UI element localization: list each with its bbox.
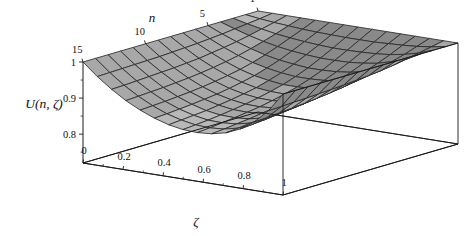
x-tick-mark — [283, 192, 284, 195]
tick-label: 0.2 — [118, 151, 131, 162]
x-tick-mark — [163, 172, 164, 175]
tick-label: 0.8 — [63, 129, 76, 140]
base-plane — [83, 112, 458, 195]
axis-title: n — [149, 10, 156, 25]
surface-mesh — [83, 11, 458, 195]
tick-label: 5 — [200, 8, 205, 19]
surface-plot-figure: 00.20.40.60.811510510.80.91U(n, ζ)ζn U(n… — [0, 0, 467, 236]
axis-title: U(n, ζ) — [25, 96, 63, 111]
tick-label: 0.4 — [158, 157, 172, 168]
tick-label: 1 — [71, 57, 76, 68]
x-tick-mark — [123, 166, 124, 169]
x-tick-mark — [243, 185, 244, 188]
tick-label: 10 — [135, 26, 146, 37]
y-tick-mark — [82, 59, 83, 62]
axis-title: ζ — [193, 214, 199, 229]
tick-label: 1 — [282, 177, 287, 188]
tick-label: 1 — [250, 0, 255, 4]
x-tick-mark — [203, 179, 204, 182]
y-tick-mark — [145, 40, 146, 43]
tick-label: 0.8 — [238, 170, 251, 181]
plot-canvas: 00.20.40.60.811510510.80.91U(n, ζ)ζn — [0, 0, 467, 236]
y-tick-mark — [257, 8, 258, 11]
tick-label: 0 — [82, 145, 87, 156]
x-tick-mark — [83, 160, 84, 163]
tick-label: 15 — [72, 44, 83, 55]
y-tick-mark — [207, 22, 208, 25]
tick-label: 0.9 — [63, 93, 76, 104]
tick-label: 0.6 — [198, 164, 211, 175]
